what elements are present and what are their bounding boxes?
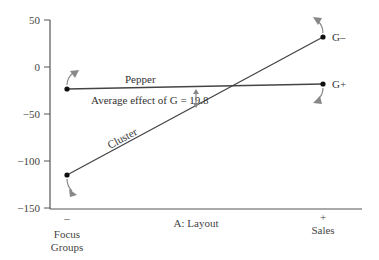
x-level-plus: + — [320, 211, 326, 223]
average-effect-annotation: Average effect of G = 19.8 — [91, 94, 209, 106]
data-point — [320, 81, 325, 86]
curved-arrow-icon — [67, 73, 73, 85]
data-point — [320, 34, 325, 39]
ytick-label: 0 — [35, 61, 41, 73]
ytick-label: −150 — [17, 202, 40, 214]
data-point — [64, 86, 69, 91]
g-plus-label: G+ — [332, 78, 346, 90]
data-point — [64, 172, 69, 177]
ytick-label: −100 — [17, 155, 40, 167]
arrow-head-icon — [69, 189, 77, 197]
arrow-head-icon — [313, 96, 322, 104]
pepper-line — [67, 84, 323, 89]
x-category-left: Groups — [51, 241, 83, 253]
x-level-minus: – — [63, 212, 70, 224]
pepper-label: Pepper — [125, 73, 156, 85]
interaction-plot: 50 0 −50 −100 −150 – Focus Groups + Sale… — [0, 0, 379, 260]
cluster-label: Cluster — [105, 125, 139, 151]
curved-arrow-icon — [67, 179, 72, 191]
ytick-label: −50 — [23, 108, 41, 120]
x-category-right: Sales — [311, 224, 334, 236]
y-ticks — [44, 20, 50, 208]
g-minus-label: G– — [332, 31, 346, 43]
x-category-left: Focus — [54, 228, 80, 240]
x-axis-label: A: Layout — [174, 217, 219, 229]
ytick-label: 50 — [29, 14, 41, 26]
